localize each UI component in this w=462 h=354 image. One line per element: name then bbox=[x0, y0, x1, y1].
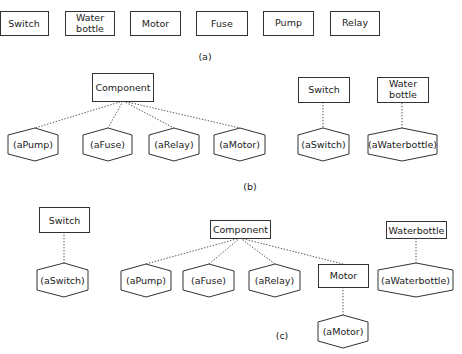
instance-label: (aRelay) bbox=[154, 139, 193, 150]
panel-b: Component Switch Water bottle (aPump) (a… bbox=[8, 74, 437, 193]
class-box-component: Component bbox=[93, 74, 154, 102]
class-label: Component bbox=[95, 82, 150, 93]
class-box-waterbottle: Waterbottle bbox=[387, 222, 447, 239]
class-box-switch: Switch bbox=[299, 78, 350, 103]
class-label: Fuse bbox=[211, 18, 233, 29]
instance-hex-relay: (aRelay) bbox=[149, 128, 199, 161]
instance-hex-switch: (aSwitch) bbox=[298, 128, 349, 161]
class-box-motor: Motor bbox=[131, 12, 181, 36]
instance-hex-motor: (aMotor) bbox=[214, 128, 265, 161]
class-box-water-bottle: Water bottle bbox=[378, 78, 429, 103]
instance-label: (aWaterbottle) bbox=[368, 139, 437, 150]
instance-label: (aSwitch) bbox=[40, 275, 85, 286]
instance-hex-switch: (aSwitch) bbox=[37, 263, 88, 297]
class-label: Waterbottle bbox=[389, 225, 445, 236]
instance-label: (aFuse) bbox=[90, 139, 125, 150]
instance-hex-relay: (aRelay) bbox=[249, 264, 300, 297]
instance-links-b bbox=[35, 101, 402, 128]
class-box-water-bottle: Water bottle bbox=[66, 12, 115, 36]
instance-hex-waterbottle: (aWaterbottle) bbox=[368, 128, 437, 161]
panel-c: Switch Component Motor Waterbottle (aSwi… bbox=[37, 208, 453, 349]
instance-label: (aWaterbottle) bbox=[381, 275, 450, 286]
instance-label: (aPump) bbox=[13, 139, 53, 150]
caption-a: (a) bbox=[198, 51, 211, 62]
class-box-switch: Switch bbox=[1, 12, 49, 36]
instance-label: (aPump) bbox=[126, 275, 166, 286]
class-label: Switch bbox=[8, 18, 39, 29]
class-label: Relay bbox=[342, 17, 368, 28]
instance-hex-fuse: (aFuse) bbox=[83, 128, 132, 161]
instance-hex-pump: (aPump) bbox=[121, 264, 171, 297]
class-label: Pump bbox=[275, 17, 302, 28]
instance-label: (aMotor) bbox=[219, 139, 260, 150]
class-box-pump: Pump bbox=[264, 12, 314, 36]
class-label: Switch bbox=[308, 84, 339, 95]
instance-label: (aSwitch) bbox=[301, 139, 346, 150]
class-label: Motor bbox=[142, 18, 170, 29]
instance-label: (aMotor) bbox=[323, 326, 364, 337]
class-box-switch: Switch bbox=[40, 208, 90, 233]
instance-label: (aRelay) bbox=[255, 275, 294, 286]
instance-label: (aFuse) bbox=[191, 275, 226, 286]
object-model-diagram: Switch Water bottle Motor Fuse Pump Rela… bbox=[0, 0, 462, 354]
class-label: Motor bbox=[330, 270, 358, 281]
caption-b: (b) bbox=[243, 181, 256, 192]
class-box-fuse: Fuse bbox=[197, 12, 248, 36]
instance-hex-pump: (aPump) bbox=[8, 128, 58, 161]
instance-hex-fuse: (aFuse) bbox=[183, 264, 234, 297]
class-box-component: Component bbox=[211, 221, 271, 239]
instance-hex-waterbottle: (aWaterbottle) bbox=[378, 263, 453, 297]
panel-a: Switch Water bottle Motor Fuse Pump Rela… bbox=[1, 12, 380, 63]
class-box-relay: Relay bbox=[331, 12, 380, 36]
class-label-line1: Water bbox=[389, 78, 417, 89]
caption-c: (c) bbox=[276, 330, 289, 341]
class-label: Component bbox=[213, 224, 268, 235]
class-label-line2: bottle bbox=[389, 89, 417, 100]
class-label: Switch bbox=[49, 215, 80, 226]
class-label-line1: Water bbox=[76, 12, 104, 23]
instance-hex-motor: (aMotor) bbox=[318, 315, 368, 348]
class-box-motor: Motor bbox=[319, 265, 369, 288]
class-label-line2: bottle bbox=[76, 23, 104, 34]
